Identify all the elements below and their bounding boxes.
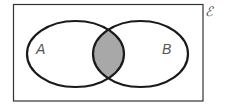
universal-set-label: ℰ [205,4,214,19]
set-a-label: A [35,41,45,57]
set-b-label: B [162,41,171,57]
venn-diagram: A B ℰ [0,0,225,104]
